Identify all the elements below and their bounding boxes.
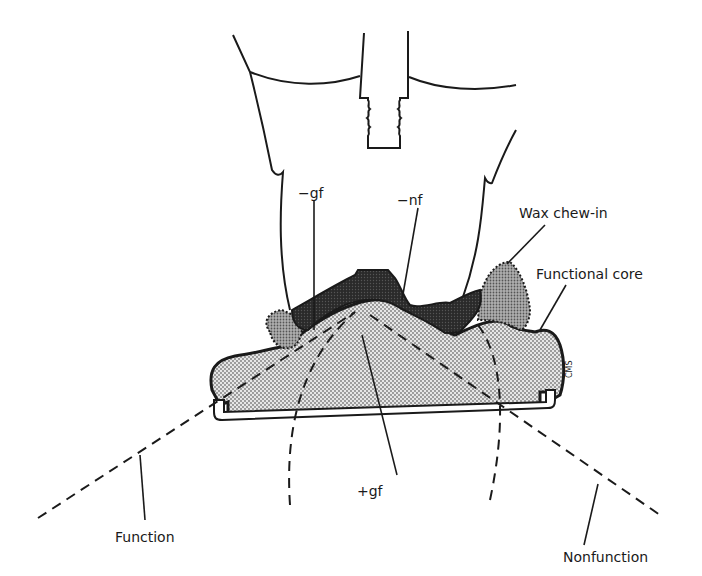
label-minus-nf: −nf [397, 193, 423, 207]
diagram-canvas: −gf −nf Wax chew-in Functional core +gf … [0, 0, 702, 576]
leader-minus-nf [402, 208, 418, 300]
leader-functional-core [540, 285, 566, 330]
cervical-line-left [250, 72, 360, 84]
wax-chew-in-right [478, 262, 530, 330]
label-nonfunction: Nonfunction [563, 550, 648, 564]
screw-post [360, 31, 408, 148]
leader-wax-chew-in [507, 225, 545, 264]
label-minus-gf: −gf [298, 186, 324, 200]
label-plus-gf: +gf [357, 484, 383, 498]
leader-function [140, 455, 145, 520]
label-function: Function [115, 530, 175, 544]
label-signature: CMS [566, 360, 574, 378]
upper-tooth [233, 31, 516, 310]
cervical-line-right [409, 77, 516, 89]
label-functional-core: Functional core [536, 267, 643, 281]
occlusion-diagram [0, 0, 702, 576]
label-wax-chew-in: Wax chew-in [519, 206, 608, 220]
leader-nonfunction [584, 484, 598, 545]
